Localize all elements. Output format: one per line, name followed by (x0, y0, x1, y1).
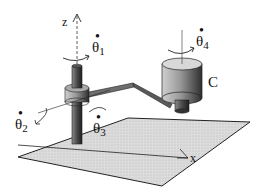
theta4-label: •θ4 (196, 34, 209, 51)
theta1-rotation-arrow (63, 56, 89, 61)
z-axis-label: z (62, 16, 67, 28)
ground-plane (18, 118, 250, 186)
theta1-label: •θ1 (92, 40, 105, 57)
theta3-label: •θ3 (93, 121, 106, 138)
link-1 (89, 83, 134, 97)
theta2-label: •θ2 (15, 117, 28, 134)
upper-column (72, 66, 82, 88)
tool-c-label: C (208, 75, 218, 90)
x-axis-label: x (190, 152, 196, 164)
scara-robot-diagram (0, 0, 265, 196)
theta4-rotation-arrow (168, 48, 194, 54)
base-column (72, 100, 82, 144)
